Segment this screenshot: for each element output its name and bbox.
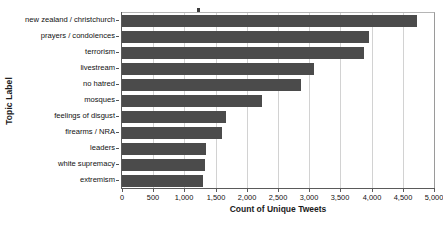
stray-artifact-mark (197, 8, 200, 12)
x-axis-tick-mark (403, 189, 404, 192)
gridline (403, 13, 404, 189)
x-axis-tick-label: 5,000 (425, 193, 443, 202)
x-axis-tick-label: 2,000 (238, 193, 257, 202)
x-axis-tick-label: 4,000 (363, 193, 382, 202)
x-axis-tick-mark (247, 189, 248, 192)
y-axis-tick-mark (116, 68, 119, 69)
y-axis-tick-label: prayers / condolences (41, 30, 115, 42)
gridline (372, 13, 373, 189)
y-axis-tick-mark (116, 36, 119, 37)
bar (122, 63, 314, 75)
bar (122, 47, 364, 59)
x-axis-tick-label: 2,500 (269, 193, 288, 202)
plot-area (122, 12, 435, 189)
y-axis-line (121, 12, 122, 189)
y-axis-tick-label: extremism (80, 174, 115, 186)
bar (122, 127, 222, 139)
x-axis-tick-mark (278, 189, 279, 192)
bar (122, 15, 417, 27)
bar-chart: Topic Label new zealand / christchurchpr… (0, 0, 443, 232)
y-axis-tick-label: white supremacy (58, 158, 115, 170)
y-axis-tick-label: firearms / NRA (65, 126, 115, 138)
y-axis-tick-mark (116, 116, 119, 117)
bar (122, 143, 206, 155)
x-axis-tick-mark (434, 189, 435, 192)
x-axis-tick-label: 0 (120, 193, 124, 202)
x-axis-tick-label: 3,500 (331, 193, 350, 202)
x-axis-tick-mark (184, 189, 185, 192)
y-axis-tick-labels: new zealand / christchurchprayers / cond… (16, 12, 119, 188)
x-axis-tick-mark (309, 189, 310, 192)
y-axis-tick-mark (116, 164, 119, 165)
y-axis-title-text: Topic Label (4, 77, 14, 125)
x-axis-tick-mark (340, 189, 341, 192)
x-axis-tick-label: 1,000 (175, 193, 194, 202)
y-axis-tick-label: terrorism (85, 46, 115, 58)
x-axis-tick-label: 3,000 (300, 193, 319, 202)
y-axis-tick-mark (116, 84, 119, 85)
x-axis-tick-mark (372, 189, 373, 192)
bar (122, 31, 369, 43)
y-axis-tick-mark (116, 52, 119, 53)
y-axis-tick-label: livestream (80, 62, 115, 74)
bar (122, 159, 205, 171)
x-axis-title: Count of Unique Tweets (122, 204, 434, 214)
y-axis-tick-mark (116, 100, 119, 101)
y-axis-tick-label: feelings of disgust (54, 110, 115, 122)
x-axis-tick-mark (153, 189, 154, 192)
y-axis-tick-label: mosques (84, 94, 115, 106)
x-axis-tick-label: 4,500 (394, 193, 413, 202)
bar (122, 79, 301, 91)
y-axis-tick-mark (116, 20, 119, 21)
bar (122, 95, 262, 107)
x-axis-tick-mark (216, 189, 217, 192)
x-axis-tick-label: 1,500 (207, 193, 226, 202)
y-axis-tick-mark (116, 148, 119, 149)
y-axis-title: Topic Label (2, 56, 16, 146)
y-axis-tick-label: no hatred (83, 78, 115, 90)
x-axis-tick-label: 500 (147, 193, 159, 202)
x-axis-tick-mark (122, 189, 123, 192)
bar (122, 175, 203, 187)
bar (122, 111, 226, 123)
y-axis-tick-mark (116, 180, 119, 181)
y-axis-tick-label: new zealand / christchurch (25, 14, 115, 26)
y-axis-tick-label: leaders (90, 142, 115, 154)
y-axis-tick-mark (116, 132, 119, 133)
